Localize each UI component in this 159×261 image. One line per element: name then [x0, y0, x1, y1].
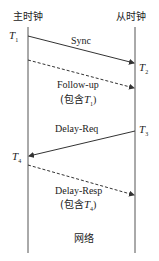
follow-up-label: Follow-up — [57, 80, 99, 90]
timestamp-t3: T3 — [139, 124, 148, 137]
master-clock-label: 主时钟 — [13, 12, 43, 22]
timestamp-t1: T1 — [9, 30, 18, 43]
sync-label: Sync — [71, 36, 91, 46]
timestamp-t2: T2 — [139, 62, 148, 75]
slave-clock-label: 从时钟 — [116, 12, 146, 22]
network-label: 网络 — [74, 234, 94, 244]
timestamp-t4: T4 — [12, 151, 21, 164]
delay-resp-label: Delay-Resp — [55, 186, 102, 196]
delay-req-arrow — [29, 131, 135, 156]
follow-up-sublabel: (包含T1) — [60, 94, 96, 107]
delay-resp-sublabel: (包含T4) — [60, 199, 96, 212]
delay-req-label: Delay-Req — [55, 124, 98, 134]
